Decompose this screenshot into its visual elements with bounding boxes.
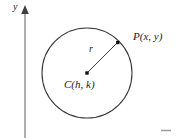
y-axis-label: y — [13, 2, 17, 12]
point-p-label: P(x, y) — [133, 31, 162, 42]
radius-label: r — [89, 44, 93, 54]
y-axis-arrowhead — [21, 5, 29, 14]
figure-canvas — [0, 0, 179, 138]
center-point-marker — [85, 71, 88, 74]
circle-figure: y r C(h, k) P(x, y) — [0, 0, 179, 138]
point-p-marker — [116, 41, 119, 44]
center-label: C(h, k) — [64, 79, 95, 90]
